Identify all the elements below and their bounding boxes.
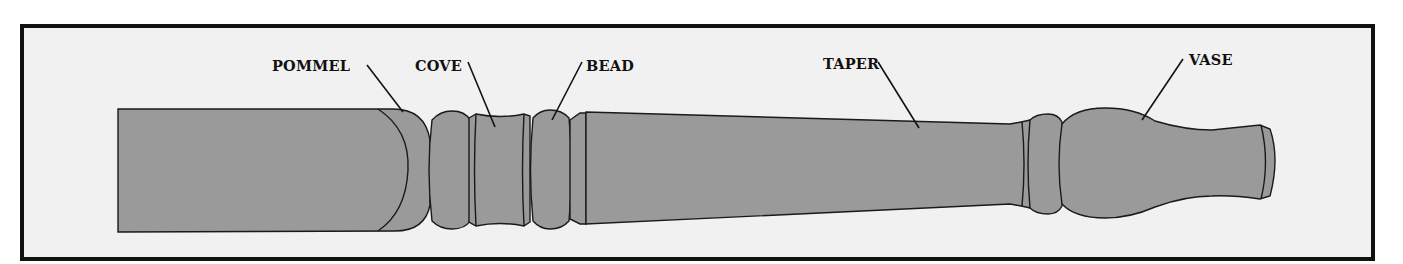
spindle-diagram: POMMEL COVE BEAD TAPER VASE bbox=[0, 0, 1403, 264]
pommel-leader bbox=[367, 65, 403, 112]
square-section bbox=[118, 109, 430, 232]
taper-leader bbox=[878, 62, 919, 128]
label-taper: TAPER bbox=[823, 55, 880, 72]
label-pommel: POMMEL bbox=[272, 57, 350, 74]
bead-leader bbox=[552, 62, 582, 120]
cove-section bbox=[469, 114, 530, 226]
label-cove: COVE bbox=[415, 57, 462, 74]
vase-leader bbox=[1142, 59, 1183, 120]
vase-section bbox=[1059, 108, 1275, 218]
round-bead-1 bbox=[429, 111, 470, 229]
fillet bbox=[570, 113, 586, 224]
taper-section bbox=[586, 112, 1030, 224]
label-bead: BEAD bbox=[586, 57, 634, 74]
bead-section bbox=[531, 110, 572, 229]
label-vase: VASE bbox=[1188, 51, 1233, 68]
